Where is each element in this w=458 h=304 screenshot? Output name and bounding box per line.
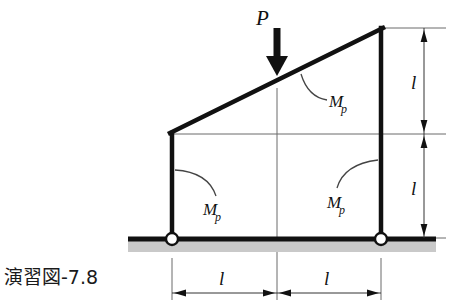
hinge-arc-beam-right — [301, 74, 327, 100]
dimension-horizontal-left: l — [172, 268, 277, 296]
hinge-arc-right-column — [337, 160, 378, 188]
load-arrow-P — [266, 28, 288, 76]
hinge-label-beam-right: M p — [328, 92, 347, 116]
load-label-P: P — [255, 6, 269, 30]
dimension-label-l-left: l — [219, 268, 224, 289]
pin-support-left — [166, 233, 178, 245]
frame-diagram: P M p M p M p l l l l — [0, 0, 458, 304]
figure-caption: 演習図-7.8 — [4, 262, 98, 289]
dimension-label-l-upper: l — [411, 72, 416, 93]
hinge-label-left-column: M p — [202, 200, 221, 224]
hinge-label-p-1: p — [340, 102, 347, 116]
hinge-label-p-2: p — [214, 210, 221, 224]
dimension-label-l-lower: l — [411, 178, 416, 199]
dimension-horizontal-right: l — [277, 268, 381, 296]
hinge-label-p-3: p — [338, 203, 345, 217]
hinge-arc-left-column — [175, 170, 216, 196]
dimension-vertical-lower: l — [411, 134, 427, 238]
dimension-vertical-upper: l — [411, 28, 427, 134]
hinge-label-right-column: M p — [326, 193, 345, 217]
dimension-label-l-right: l — [324, 268, 329, 289]
pin-support-right — [375, 233, 387, 245]
